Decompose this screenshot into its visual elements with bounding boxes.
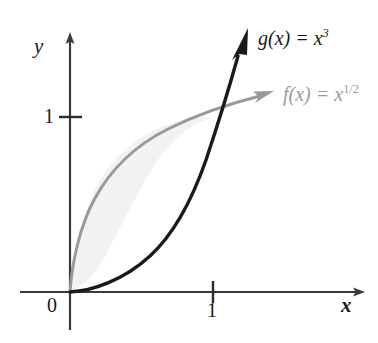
curve-g-label: g(x) = x3: [258, 28, 329, 48]
x-axis-label: x: [341, 295, 352, 316]
curve-g-arrowhead: [232, 28, 248, 60]
graph-canvas: [0, 0, 378, 343]
x-axis-tick-label-1: 1: [207, 300, 217, 320]
curve-f-label: f(x) = x1/2: [283, 84, 359, 104]
curve-f-label-exponent: 1/2: [343, 82, 359, 96]
y-axis-label: y: [34, 36, 43, 57]
curve-f-label-text: f(x) = x: [283, 83, 343, 105]
curve-g-label-text: g(x) = x: [258, 27, 323, 49]
curve-g-label-exponent: 3: [323, 26, 329, 40]
area-between-curves-figure: g(x) = x3 f(x) = x1/2 y x 0 1 1: [0, 0, 378, 343]
origin-label: 0: [47, 295, 57, 315]
y-axis-tick-label-1: 1: [44, 106, 54, 126]
